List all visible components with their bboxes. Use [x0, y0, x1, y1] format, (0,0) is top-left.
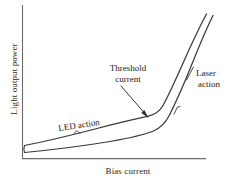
y-axis-label: Light output power — [9, 31, 19, 127]
threshold-leader-line — [121, 86, 145, 113]
threshold-annotation-line1: Threshold — [110, 63, 147, 73]
laser-annotation-line2: action — [196, 79, 240, 90]
curve-origin-join — [24, 146, 25, 153]
laser-diode-li-curve-figure: Light output power Bias current Threshol… — [0, 0, 243, 182]
laser-annotation-line1: Laser — [196, 68, 216, 78]
laser-action-annotation: Laser action — [196, 68, 240, 89]
plot-area — [0, 0, 243, 182]
x-axis-label: Bias current — [58, 166, 198, 176]
threshold-current-annotation: Threshold current — [97, 63, 159, 84]
laser-leader-tick — [174, 107, 180, 115]
threshold-annotation-line2: current — [97, 74, 159, 85]
